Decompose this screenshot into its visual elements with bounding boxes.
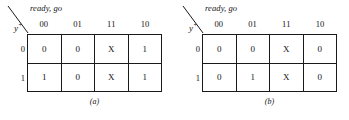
kmap-row: 0 0 X 0 [203,35,336,63]
row-variable-superscript-a: + [18,21,22,28]
row-header: 0 [185,34,200,63]
column-header: 01 [236,18,270,31]
column-variable-label-a: ready, go [30,3,62,13]
karnaugh-map-b: ready, go y+ 00 01 11 10 0 1 0 0 X 0 0 1 [175,0,349,120]
kmap-cell: 0 [61,35,95,63]
karnaugh-map-a: ready, go y+ 00 01 11 10 0 1 0 0 X 1 1 0 [0,0,174,120]
row-variable-superscript-b: + [193,21,197,28]
column-variable-label-b: ready, go [205,3,237,13]
row-variable-label-a: y+ [14,21,22,33]
kmap-cell: 1 [128,35,162,63]
kmap-cell: 0 [203,64,236,92]
kmap-cell: X [269,64,303,92]
row-header: 1 [10,63,25,92]
figure-caption-a: (a) [27,97,162,106]
karnaugh-map-figure: ready, go y+ 00 01 11 10 0 1 0 0 X 1 1 0 [0,0,349,120]
row-headers-a: 0 1 [10,34,25,92]
column-headers-a: 00 01 11 10 [27,18,162,31]
column-header: 00 [202,18,236,31]
kmap-cell: X [94,64,128,92]
row-header: 0 [10,34,25,63]
kmap-grid-b: 0 0 X 0 0 1 X 0 [202,34,337,92]
column-header: 11 [95,18,129,31]
column-header: 10 [128,18,162,31]
kmap-cell: 0 [303,64,337,92]
column-header: 00 [27,18,61,31]
kmap-cell: 0 [203,35,236,63]
column-header: 10 [303,18,337,31]
row-header: 1 [185,63,200,92]
kmap-grid-a: 0 0 X 1 1 0 X 1 [27,34,162,92]
kmap-cell: 1 [28,64,61,92]
kmap-cell: 1 [236,64,270,92]
kmap-cell: 0 [303,35,337,63]
kmap-cell: X [269,35,303,63]
kmap-row: 0 0 X 1 [28,35,161,63]
kmap-cell: 0 [28,35,61,63]
kmap-cell: 1 [128,64,162,92]
kmap-row: 1 0 X 1 [28,63,161,92]
row-headers-b: 0 1 [185,34,200,92]
row-variable-label-b: y+ [189,21,197,33]
figure-caption-b: (b) [202,97,337,106]
column-headers-b: 00 01 11 10 [202,18,337,31]
kmap-row: 0 1 X 0 [203,63,336,92]
column-header: 01 [61,18,95,31]
kmap-cell: X [94,35,128,63]
kmap-cell: 0 [236,35,270,63]
column-header: 11 [270,18,304,31]
kmap-cell: 0 [61,64,95,92]
